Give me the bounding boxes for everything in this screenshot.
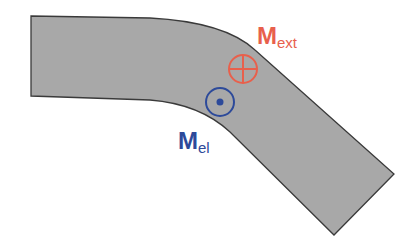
external-moment-symbol: M [257, 22, 277, 49]
elastic-moment-symbol: M [178, 127, 198, 154]
bent-beam [31, 16, 394, 235]
cross-in-circle-icon [229, 55, 257, 83]
elastic-moment-label: Mel [178, 127, 210, 155]
bent-beam-diagram [0, 0, 404, 243]
external-moment-label: Mext [257, 22, 297, 50]
external-moment-subscript: ext [277, 34, 297, 51]
elastic-moment-subscript: el [198, 139, 210, 156]
